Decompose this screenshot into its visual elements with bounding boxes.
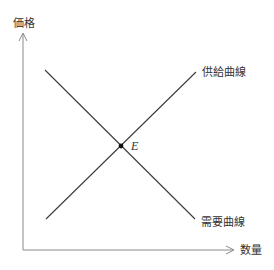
equilibrium-label: E bbox=[130, 139, 139, 153]
diagram-canvas: 価格 数量 供給曲線 需要曲線 E bbox=[0, 0, 274, 270]
supply-demand-diagram: 価格 数量 供給曲線 需要曲線 E bbox=[0, 0, 274, 270]
x-axis-label: 数量 bbox=[240, 244, 262, 257]
equilibrium-point bbox=[119, 144, 124, 149]
demand-curve-label: 需要曲線 bbox=[201, 215, 245, 229]
y-axis-label: 価格 bbox=[13, 16, 35, 30]
supply-curve-label: 供給曲線 bbox=[202, 65, 246, 79]
